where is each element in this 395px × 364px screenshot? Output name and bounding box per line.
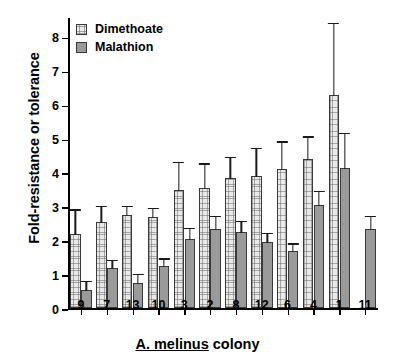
error-bar	[267, 233, 268, 243]
bar-group	[354, 229, 376, 309]
chart-legend: Dimethoate Malathion	[76, 22, 163, 58]
bar-dimethoate	[199, 188, 210, 309]
error-bar	[178, 162, 179, 191]
legend-swatch-malathion	[76, 42, 87, 53]
error-bar	[215, 216, 216, 230]
error-bar	[344, 133, 345, 169]
bar-group	[122, 215, 144, 308]
error-bar	[86, 281, 87, 291]
y-tick	[62, 72, 68, 73]
y-tick-label: 1	[52, 269, 59, 283]
legend-item-dimethoate: Dimethoate	[76, 22, 163, 36]
x-tick-label: 7	[103, 298, 110, 312]
bar-malathion	[340, 168, 351, 309]
bar-malathion	[236, 232, 247, 308]
x-tick-label: 2	[207, 298, 214, 312]
x-tick-label: 13	[126, 298, 140, 312]
y-tick	[62, 241, 68, 242]
x-tick-label: 6	[284, 298, 291, 312]
bar-dimethoate	[225, 178, 236, 309]
bar-group	[303, 159, 325, 308]
y-tick	[62, 207, 68, 208]
bar-chart-figure: Fold-resistance or tolerance 012345678 9…	[0, 0, 395, 364]
error-bar	[112, 260, 113, 268]
bar-group	[199, 188, 221, 309]
error-bar	[318, 191, 319, 206]
bar-malathion	[365, 229, 376, 309]
error-bar	[241, 221, 242, 233]
bar-dimethoate	[174, 190, 185, 309]
bar-group	[251, 176, 273, 308]
error-bar	[189, 228, 190, 240]
error-bar	[292, 243, 293, 251]
bar-group	[174, 190, 196, 309]
x-tick-label: 4	[310, 298, 317, 312]
bar-dimethoate	[251, 176, 262, 308]
legend-swatch-dimethoate	[76, 24, 87, 35]
y-tick	[62, 173, 68, 174]
y-tick-label: 5	[52, 133, 59, 147]
x-tick-label: 12	[255, 298, 269, 312]
bar-malathion	[314, 205, 325, 309]
y-axis-title: Fold-resistance or tolerance	[26, 18, 42, 278]
x-tick-label: 1	[336, 298, 343, 312]
bar-group	[225, 178, 247, 309]
error-bar	[137, 274, 138, 284]
x-tick-label: 9	[77, 298, 84, 312]
bar-group	[96, 222, 118, 309]
y-tick-label: 8	[52, 31, 59, 45]
y-tick	[62, 106, 68, 107]
y-tick	[62, 140, 68, 141]
bar-dimethoate	[122, 215, 133, 308]
x-tick-label: 10	[151, 298, 165, 312]
bar-group	[148, 217, 170, 309]
y-tick	[62, 309, 68, 310]
bar-group	[277, 169, 299, 308]
y-tick-label: 6	[52, 99, 59, 113]
bar-malathion	[210, 229, 221, 309]
y-tick-label: 7	[52, 65, 59, 79]
error-bar	[204, 163, 205, 188]
bar-dimethoate	[277, 169, 288, 308]
x-tick-label: 8	[232, 298, 239, 312]
error-bar	[101, 206, 102, 223]
bar-dimethoate	[148, 217, 159, 309]
legend-label-dimethoate: Dimethoate	[95, 22, 163, 36]
y-tick	[62, 38, 68, 39]
bar-dimethoate	[96, 222, 107, 309]
y-tick-label: 4	[52, 167, 59, 181]
plot-area: 012345678	[68, 18, 378, 310]
error-bar	[163, 258, 164, 266]
legend-item-malathion: Malathion	[76, 40, 163, 54]
y-tick-label: 0	[52, 303, 59, 317]
x-axis-title: A. melinus colony	[0, 336, 395, 352]
x-tick-label: 3	[181, 298, 188, 312]
x-axis-line	[68, 308, 378, 310]
error-bar	[230, 157, 231, 179]
y-tick-label: 2	[52, 235, 59, 249]
bar-dimethoate	[303, 159, 314, 308]
x-axis-title-species: A. melinus	[135, 336, 208, 352]
x-tick-label: 11	[358, 298, 371, 312]
legend-label-malathion: Malathion	[95, 40, 153, 54]
y-tick-label: 3	[52, 201, 59, 215]
error-bar	[333, 23, 334, 96]
bar-dimethoate	[329, 95, 340, 309]
error-bar	[370, 216, 371, 230]
y-tick	[62, 275, 68, 276]
error-bar	[256, 148, 257, 177]
bar-group	[329, 95, 351, 309]
x-axis-title-rest: colony	[209, 336, 260, 352]
error-bar	[126, 206, 127, 216]
error-bar	[281, 141, 282, 170]
error-bar	[307, 136, 308, 160]
error-bar	[75, 209, 76, 234]
error-bar	[152, 208, 153, 218]
